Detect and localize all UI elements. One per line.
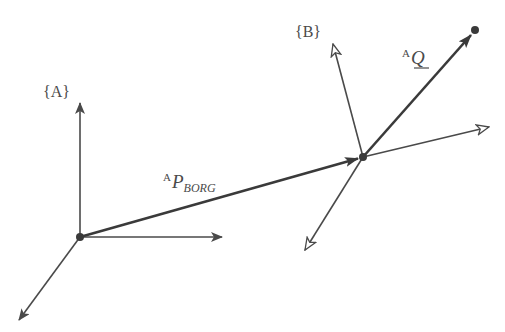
- vector-q: AQ: [363, 26, 479, 157]
- vector-q-label: AQ: [402, 47, 425, 68]
- frame-b-x-axis: [363, 127, 489, 157]
- frame-transform-diagram: {A} {B} APBORG AQ: [0, 0, 505, 332]
- frame-a-label: {A}: [43, 83, 70, 100]
- frame-b-origin: [359, 153, 367, 161]
- vector-p-borg: APBORG: [80, 159, 358, 238]
- vector-p-borg-line: [80, 159, 358, 238]
- point-q: [471, 26, 479, 34]
- frame-a: {A}: [19, 83, 222, 320]
- frame-b-y-axis: [333, 44, 363, 157]
- vector-p-borg-label: APBORG: [163, 171, 216, 195]
- frame-b: {B}: [295, 23, 489, 250]
- frame-b-label: {B}: [295, 23, 321, 40]
- frame-a-z-axis: [19, 237, 80, 320]
